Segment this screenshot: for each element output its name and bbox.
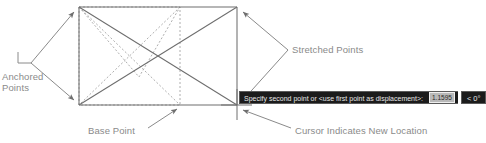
stretched-arrow-top xyxy=(243,12,288,50)
base-point-leader xyxy=(148,109,177,128)
base-point-arrow xyxy=(148,109,177,128)
dynamic-input-prompt: Specify second point or <use first point… xyxy=(239,91,426,104)
anchor-arrow-top xyxy=(31,12,74,63)
original-geometry-dashed xyxy=(79,7,180,105)
dynamic-input-angle-field[interactable]: < 0° xyxy=(461,91,486,104)
dynamic-input-distance-field[interactable]: 1.1595 xyxy=(429,92,455,103)
original-vee xyxy=(79,7,180,77)
dynamic-input-tooltip: Specify second point or <use first point… xyxy=(239,91,486,104)
cursor-arrow xyxy=(243,110,291,128)
stretched-geometry xyxy=(79,7,237,105)
stretched-points-leader xyxy=(243,12,288,100)
dynamic-input-field-wrap: 1.1595 xyxy=(426,91,458,104)
label-stretched-points: Stretched Points xyxy=(292,44,363,55)
label-anchored-points: Anchored Points xyxy=(2,71,43,93)
anchor-bracket xyxy=(18,52,31,63)
label-base-point: Base Point xyxy=(88,125,135,136)
label-cursor-new-location: Cursor Indicates New Location xyxy=(295,125,427,136)
cursor-leader xyxy=(243,110,291,128)
